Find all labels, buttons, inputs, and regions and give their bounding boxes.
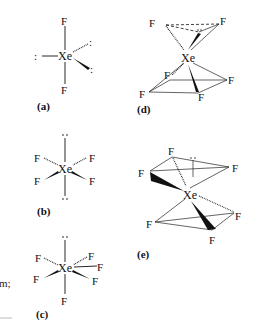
- base-edge-d: [149, 80, 170, 92]
- structure-label-e: (e): [137, 248, 150, 261]
- atom-f: F: [89, 152, 95, 164]
- hash-bond-d: [172, 64, 183, 75]
- edge-e: [190, 167, 229, 188]
- hash-bond-c: [73, 257, 87, 265]
- atom-f: F: [146, 218, 152, 230]
- page-text-fragment: m;: [0, 277, 11, 289]
- edge-e: [150, 157, 172, 171]
- atom-f: F: [61, 84, 67, 96]
- structure-label-d: (d): [137, 103, 151, 116]
- wedge-bond-c: [44, 270, 59, 278]
- lone-pair: :: [90, 63, 93, 75]
- structure-label-b: (b): [37, 205, 51, 218]
- wedge-bond-b: [71, 171, 87, 180]
- xenon-fluoride-structures-figure: F Xe F : : : (a) Xe F F F F (b) Xe F F: [0, 0, 253, 321]
- edge-d: [191, 24, 219, 50]
- atom-xe: Xe: [58, 49, 72, 63]
- wedge-bond-a: [73, 58, 90, 70]
- hash-bond-a: [73, 44, 88, 52]
- atom-f: F: [168, 145, 174, 157]
- structure-d: F F Xe F F F F (d): [137, 15, 234, 116]
- structure-e: F F F Xe F F F (e): [137, 145, 241, 261]
- wedge-bond-d: [188, 64, 199, 92]
- structure-a: F Xe F : : : (a): [34, 15, 93, 113]
- structure-label-c: (c): [36, 308, 49, 321]
- atom-f: F: [198, 91, 204, 103]
- atom-f: F: [139, 88, 145, 100]
- atom-f: F: [33, 273, 39, 285]
- dashed-edge-d: [166, 24, 219, 25]
- wedge-bond-b: [44, 171, 59, 180]
- edge-e: [150, 167, 229, 171]
- hash-bond-d: [166, 26, 184, 50]
- wedge-bond-c: [72, 270, 90, 279]
- edge-e: [172, 157, 229, 167]
- edge-e: [155, 213, 234, 222]
- hash-bond-b: [44, 158, 58, 165]
- atom-f: F: [34, 175, 40, 187]
- base-edge-d: [149, 92, 198, 93]
- lone-pair: :: [89, 36, 92, 48]
- atom-f: F: [89, 175, 95, 187]
- structure-c: Xe F F F F F F (c): [33, 236, 103, 321]
- wedge-bond-d: [188, 33, 201, 50]
- atom-f: F: [220, 15, 226, 27]
- atom-f: F: [232, 162, 238, 174]
- atom-f: F: [138, 167, 144, 179]
- atom-f: F: [35, 252, 41, 264]
- dashed-edge-d: [166, 25, 199, 32]
- atom-f: F: [61, 15, 67, 27]
- hash-bond-e: [173, 158, 186, 186]
- atom-f: F: [88, 250, 94, 262]
- bond-d: [193, 63, 227, 80]
- edge-e: [212, 213, 234, 230]
- structure-label-a: (a): [37, 100, 50, 113]
- edge-e: [155, 199, 185, 222]
- atom-f: F: [149, 17, 155, 29]
- atom-xe: Xe: [181, 51, 195, 65]
- atom-f: F: [164, 69, 170, 81]
- atom-f: F: [235, 210, 241, 222]
- atom-xe: Xe: [58, 261, 72, 275]
- wedge-bond-e: [150, 172, 184, 191]
- atom-f: F: [209, 234, 215, 246]
- atom-f: F: [34, 152, 40, 164]
- bond-c-right: [74, 266, 97, 267]
- hash-bond-b: [73, 158, 86, 165]
- structure-b: Xe F F F F (b): [34, 134, 95, 218]
- edge-e: [155, 222, 212, 230]
- atom-f: F: [228, 74, 234, 86]
- atom-xe: Xe: [183, 188, 197, 202]
- atom-xe: Xe: [58, 162, 72, 176]
- hash-bond-c: [44, 258, 58, 265]
- lone-pair: :: [34, 50, 37, 62]
- edge-d: [199, 24, 219, 32]
- atom-f: F: [92, 275, 98, 287]
- atom-f: F: [61, 295, 67, 307]
- hash-bond-e: [199, 196, 234, 212]
- atom-f: F: [97, 261, 103, 273]
